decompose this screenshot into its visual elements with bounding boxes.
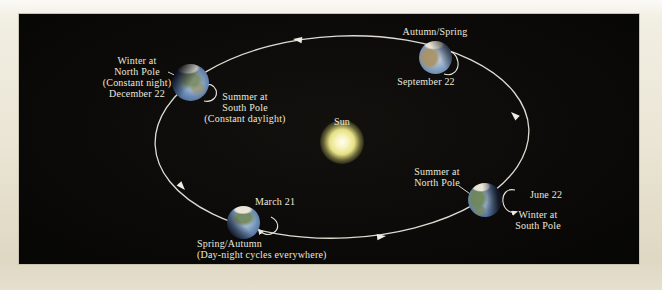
label-december-north-pole: Winter at North Pole (Constant night) De… bbox=[92, 55, 182, 99]
orbit-direction-arrow-icon bbox=[509, 110, 520, 121]
label-march-season: Spring/Autumn (Day-night cycles everywhe… bbox=[197, 238, 337, 260]
orbit-direction-arrow-icon bbox=[293, 36, 303, 43]
seasons-orbit-diagram: Sun Winter at North Pole (Constant night… bbox=[0, 0, 662, 290]
earth-september bbox=[419, 41, 452, 74]
earth-june bbox=[468, 183, 502, 217]
label-september-season: Autumn/Spring bbox=[385, 26, 485, 37]
label-june-date: June 22 bbox=[516, 189, 576, 200]
label-september-date: September 22 bbox=[376, 76, 476, 87]
label-june-north-pole: Summer at North Pole bbox=[406, 166, 468, 188]
sun-label: Sun bbox=[317, 116, 367, 127]
label-march-date: March 21 bbox=[240, 196, 310, 207]
label-june-south-pole: Winter at South Pole bbox=[507, 209, 569, 231]
label-december-south-pole: Summer at South Pole (Constant daylight) bbox=[200, 91, 290, 124]
earth-march bbox=[227, 206, 260, 239]
